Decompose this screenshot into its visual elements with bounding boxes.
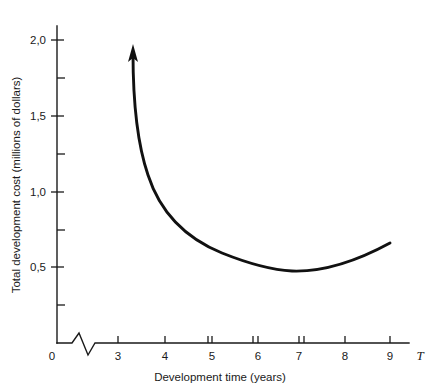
cost-curve	[133, 53, 390, 271]
x-axis-title: Development time (years)	[154, 371, 286, 383]
x-tick-label: 6	[255, 350, 261, 362]
x-tick-label: 8	[342, 350, 348, 362]
y-tick-label: 1,5	[30, 110, 46, 122]
x-tick-label: 5	[209, 350, 215, 362]
x-axis-ticks-extra	[208, 336, 253, 343]
y-tick-label: 0,5	[30, 261, 46, 273]
x-tick-label: 9	[387, 350, 393, 362]
development-cost-chart: 2,0 1,5 1,0 0,5 0 3 4 5 6 7 8 9 T Develo…	[0, 0, 435, 392]
x-tick-label: 3	[115, 350, 121, 362]
x-axis-ticks	[118, 336, 390, 343]
y-axis-title: Total development cost (millions of doll…	[10, 76, 22, 293]
y-tick-label: 2,0	[30, 34, 46, 46]
y-tick-label: 1,0	[30, 186, 46, 198]
x-tick-label: 7	[296, 350, 302, 362]
x-axis-line-with-break	[57, 333, 409, 355]
x-tick-label: 4	[162, 350, 169, 362]
chart-plot-area: 2,0 1,5 1,0 0,5 0 3 4 5 6 7 8 9 T Develo…	[0, 0, 435, 392]
origin-label: 0	[49, 350, 55, 362]
x-axis-variable-label: T	[416, 348, 424, 363]
